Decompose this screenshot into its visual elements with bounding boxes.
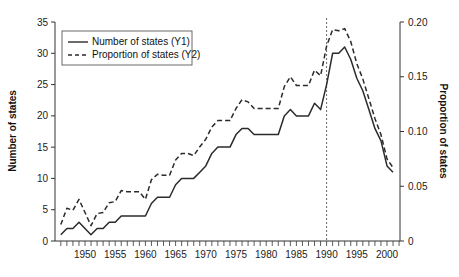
right-tick-label: 0.20 [408, 17, 428, 28]
x-tick-label: 1975 [225, 249, 248, 260]
left-tick-label: 0 [42, 236, 48, 247]
x-tick-label: 1960 [134, 249, 157, 260]
legend-solid-label: Number of states (Y1) [92, 36, 190, 47]
x-tick-label: 1980 [255, 249, 278, 260]
right-axis-title: Proportion of states [438, 83, 449, 178]
chart-canvas: 0510152025303500.050.100.150.20195019551… [0, 0, 459, 277]
left-tick-label: 5 [42, 204, 48, 215]
left-tick-label: 35 [37, 17, 49, 28]
right-tick-label: 0.05 [408, 181, 428, 192]
right-tick-label: 0 [408, 236, 414, 247]
left-tick-label: 30 [37, 48, 49, 59]
left-tick-label: 10 [37, 173, 49, 184]
x-tick-label: 1990 [315, 249, 338, 260]
x-tick-label: 1950 [74, 249, 97, 260]
x-tick-label: 1985 [285, 249, 308, 260]
x-tick-label: 2000 [376, 249, 399, 260]
left-tick-label: 20 [37, 110, 49, 121]
x-tick-label: 1970 [195, 249, 218, 260]
right-tick-label: 0.15 [408, 71, 428, 82]
left-tick-label: 15 [37, 142, 49, 153]
legend: Number of states (Y1) Proportion of stat… [62, 31, 200, 65]
x-tick-label: 1995 [346, 249, 369, 260]
right-tick-label: 0.10 [408, 126, 428, 137]
legend-dashed-label: Proportion of states (Y2) [92, 49, 200, 60]
number-of-states-line [61, 47, 393, 235]
x-tick-label: 1955 [104, 249, 127, 260]
left-axis-title: Number of states [7, 90, 18, 172]
x-tick-label: 1965 [164, 249, 187, 260]
left-tick-label: 25 [37, 79, 49, 90]
